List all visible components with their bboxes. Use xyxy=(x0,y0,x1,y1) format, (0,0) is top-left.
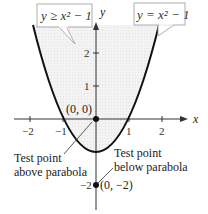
annotation-above-line2: above parabola xyxy=(14,165,88,179)
point-below-label: (0, −2) xyxy=(100,178,133,192)
annotation-above-line1: Test point xyxy=(14,151,62,165)
y-tick-neg2: −2 xyxy=(80,179,92,191)
region-label: y ≥ x² − 1 xyxy=(39,8,92,23)
x-tick-1: 1 xyxy=(126,125,132,137)
curve-label: y = x² − 1 xyxy=(135,7,189,22)
x-tick-neg1: −1 xyxy=(55,125,67,137)
y-tick-2: 2 xyxy=(84,47,90,59)
y-axis-label: y xyxy=(99,5,106,19)
x-tick-neg2: −2 xyxy=(22,125,34,137)
x-axis-arrow-icon xyxy=(180,116,188,122)
point-origin xyxy=(93,116,99,122)
x-axis-label: x xyxy=(192,112,199,126)
graph-canvas: y ≥ x² − 1 y = x² − 1 y x −2 −1 1 2 2 1 … xyxy=(0,0,208,214)
annotation-below-line1: Test point xyxy=(114,146,162,160)
point-origin-label: (0, 0) xyxy=(66,102,92,116)
x-tick-2: 2 xyxy=(159,125,165,137)
y-tick-1: 1 xyxy=(84,80,90,92)
annotation-below-line2: below parabola xyxy=(114,160,188,174)
